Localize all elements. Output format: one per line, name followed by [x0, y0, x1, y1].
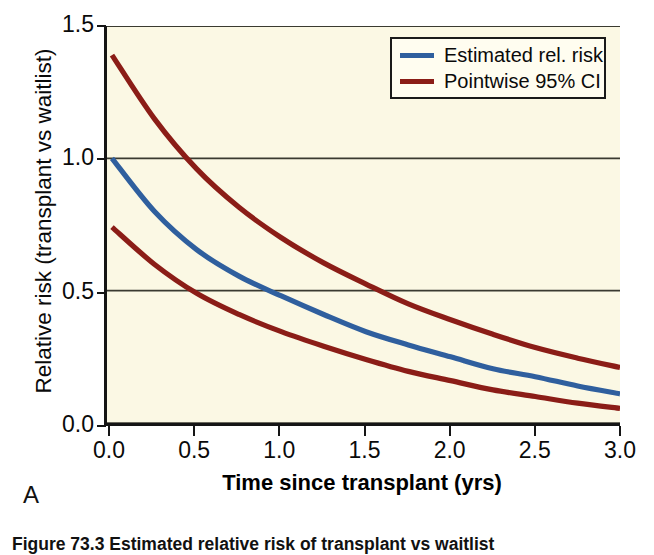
figure-caption: Figure 73.3 Estimated relative risk of t… [12, 534, 652, 555]
y-tick-mark [97, 158, 106, 160]
y-tick-mark [97, 425, 106, 427]
x-tick-mark [278, 426, 280, 436]
x-tick-mark [449, 426, 451, 436]
y-tick-mark [97, 25, 106, 27]
curve-ci-upper [112, 55, 620, 367]
x-tick-mark [619, 426, 621, 436]
legend-item-pointwise-ci: Pointwise 95% CI [400, 68, 601, 94]
x-tick-mark [364, 426, 366, 436]
x-tick-mark [534, 426, 536, 436]
legend-label-pointwise-ci: Pointwise 95% CI [444, 70, 601, 93]
x-tick-mark [108, 426, 110, 436]
x-tick-label: 0.0 [79, 437, 139, 464]
curve-ci-lower [112, 227, 620, 408]
data-curves [112, 55, 620, 408]
y-axis-title: Relative risk (transplant vs waitlist) [31, 11, 57, 431]
x-tick-label: 0.5 [164, 437, 224, 464]
legend-label-estimated-rel-risk: Estimated rel. risk [444, 44, 603, 67]
legend-item-estimated-rel-risk: Estimated rel. risk [400, 42, 603, 68]
y-tick-mark [97, 292, 106, 294]
legend-swatch-pointwise-ci [400, 79, 434, 84]
panel-letter: A [23, 481, 39, 509]
x-tick-label: 1.5 [335, 437, 395, 464]
x-tick-mark [193, 426, 195, 436]
x-tick-label: 1.0 [249, 437, 309, 464]
legend: Estimated rel. risk Pointwise 95% CI [390, 37, 606, 99]
x-tick-label: 3.0 [590, 437, 650, 464]
x-tick-label: 2.0 [420, 437, 480, 464]
x-axis-title: Time since transplant (yrs) [104, 470, 620, 496]
legend-swatch-estimated-rel-risk [400, 53, 434, 58]
x-tick-label: 2.5 [505, 437, 565, 464]
